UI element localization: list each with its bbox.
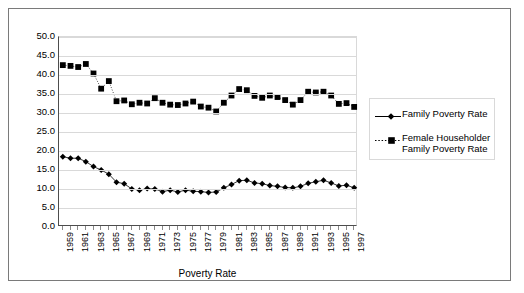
x-axis-tick (162, 226, 163, 230)
x-axis-tick-label: 1983 (250, 232, 259, 252)
x-axis-ticks (58, 226, 357, 231)
diamond-marker-icon (328, 180, 334, 186)
x-axis-tick-label: 1975 (189, 232, 198, 252)
x-axis-tick (192, 226, 193, 230)
x-axis-tick (277, 226, 278, 230)
x-axis-tick (123, 226, 124, 230)
y-axis-tick-label: 40.0 (9, 69, 55, 79)
y-axis-tick-label: 20.0 (9, 145, 55, 155)
gridline (59, 151, 356, 152)
gridline (59, 94, 356, 95)
diamond-marker-icon (91, 164, 97, 170)
diamond-marker-icon (374, 108, 402, 119)
x-axis-tick (108, 226, 109, 230)
square-marker-icon (68, 63, 74, 69)
square-marker-icon (129, 101, 135, 107)
x-axis-tick (70, 226, 71, 230)
square-marker-icon (106, 78, 112, 84)
x-axis-tick (131, 226, 132, 230)
gridline (59, 132, 356, 133)
diamond-marker-icon (267, 183, 273, 189)
x-axis-tick-label: 1991 (311, 232, 320, 252)
y-axis: 0.05.010.015.020.025.030.035.040.045.050… (9, 36, 55, 226)
square-marker-icon (259, 95, 265, 101)
x-axis-tick (338, 226, 339, 230)
diamond-marker-icon (60, 154, 66, 160)
y-axis-tick-label: 25.0 (9, 126, 55, 136)
x-axis-tick (231, 226, 232, 230)
x-axis-tick-label: 1979 (219, 232, 228, 252)
x-axis-tick (100, 226, 101, 230)
square-marker-icon (83, 61, 89, 67)
square-marker-icon (160, 100, 166, 106)
diamond-marker-icon (229, 181, 235, 187)
x-axis-tick-label: 1963 (97, 232, 106, 252)
legend-item-female-householder-family-poverty-rate[interactable]: Female Householder Family Poverty Rate (374, 132, 490, 154)
x-axis-tick-label: 1973 (173, 232, 182, 252)
chart-frame: 0.05.010.015.020.025.030.035.040.045.050… (8, 8, 511, 281)
legend-label: Family Poverty Rate (402, 108, 488, 119)
x-axis-tick-label: 1995 (342, 232, 351, 252)
x-axis-tick (146, 226, 147, 230)
plot-area (58, 36, 357, 226)
square-marker-icon (236, 86, 242, 92)
x-axis-tick-label: 1997 (357, 232, 366, 252)
x-axis-tick (139, 226, 140, 230)
gridline (59, 37, 356, 38)
x-axis-tick-label: 1967 (127, 232, 136, 252)
x-axis-tick (177, 226, 178, 230)
x-axis-tick (154, 226, 155, 230)
y-axis-tick-label: 30.0 (9, 107, 55, 117)
x-axis-title: Poverty Rate (58, 268, 357, 279)
x-axis-tick (85, 226, 86, 230)
x-axis-tick (246, 226, 247, 230)
y-axis-tick-label: 50.0 (9, 31, 55, 41)
gridline (59, 75, 356, 76)
x-axis-tick (62, 226, 63, 230)
square-marker-icon (298, 97, 304, 103)
square-marker-icon (60, 62, 66, 68)
x-axis-tick (315, 226, 316, 230)
x-axis-tick-label: 1977 (204, 232, 213, 252)
square-marker-icon (183, 101, 189, 107)
diamond-marker-icon (236, 178, 242, 184)
square-marker-icon (190, 99, 196, 105)
x-axis-tick (307, 226, 308, 230)
diamond-marker-icon (313, 179, 319, 185)
gridline (59, 56, 356, 57)
gridline (59, 208, 356, 209)
square-marker-icon (98, 86, 104, 92)
diamond-marker-icon (252, 180, 258, 186)
diamond-marker-icon (68, 155, 74, 161)
x-axis-tick (346, 226, 347, 230)
x-axis-tick (223, 226, 224, 230)
diamond-marker-icon (206, 189, 212, 195)
y-axis-tick-label: 15.0 (9, 164, 55, 174)
gridline (59, 170, 356, 171)
x-axis-tick (215, 226, 216, 230)
y-axis-tick-label: 35.0 (9, 88, 55, 98)
x-axis-tick (330, 226, 331, 230)
square-marker-icon (198, 104, 204, 110)
diamond-marker-icon (75, 155, 81, 161)
x-axis-tick (292, 226, 293, 230)
x-axis-tick (353, 226, 354, 230)
x-axis-tick (284, 226, 285, 230)
y-axis-tick-label: 10.0 (9, 183, 55, 193)
x-axis-tick (323, 226, 324, 230)
series-line (63, 64, 354, 112)
square-marker-icon (351, 104, 357, 110)
gridline (59, 189, 356, 190)
legend-item-family-poverty-rate[interactable]: Family Poverty Rate (374, 108, 488, 119)
x-axis-tick-label: 1959 (66, 232, 75, 252)
x-axis-tick-label: 1993 (327, 232, 336, 252)
square-marker-icon (114, 98, 120, 104)
diamond-marker-icon (121, 181, 127, 187)
square-marker-icon (221, 100, 227, 106)
diamond-marker-icon (321, 177, 327, 183)
diamond-marker-icon (83, 159, 89, 165)
square-marker-icon (175, 102, 181, 108)
diamond-marker-icon (305, 180, 311, 186)
square-marker-icon (290, 102, 296, 108)
square-marker-icon (374, 132, 402, 143)
